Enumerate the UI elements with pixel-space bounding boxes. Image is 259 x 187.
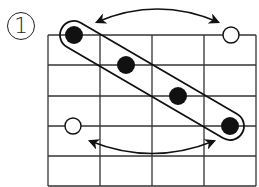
top-double-arrow-icon — [97, 9, 218, 22]
grid-diagram — [0, 0, 259, 187]
hollow-circle — [65, 118, 81, 134]
filled-dot — [221, 117, 239, 135]
filled-dot — [169, 87, 187, 105]
filled-dot — [117, 56, 135, 74]
filled-dot — [65, 26, 83, 44]
hollow-circle — [223, 27, 239, 43]
diagram: 1 — [0, 0, 259, 187]
